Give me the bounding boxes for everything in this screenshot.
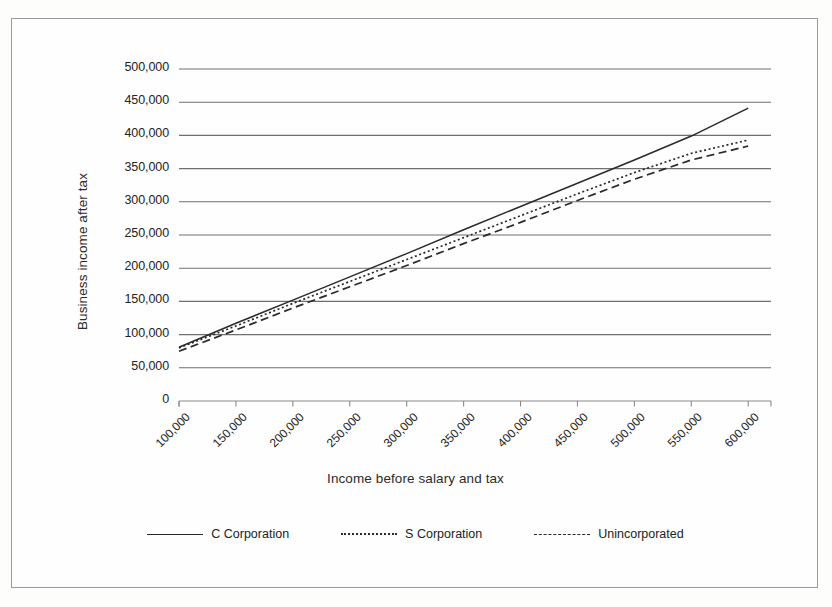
- legend-swatch-solid: [147, 534, 203, 535]
- y-tick-label: 300,000: [83, 193, 169, 207]
- figure-frame: 500,000450,000400,000350,000300,000250,0…: [11, 18, 818, 588]
- y-tick-label: 200,000: [83, 259, 169, 273]
- legend-item[interactable]: C Corporation: [147, 527, 289, 541]
- legend-item[interactable]: Unincorporated: [534, 527, 683, 541]
- y-tick-label: 450,000: [83, 93, 169, 107]
- series-line-c-corporation: [179, 108, 748, 347]
- legend-swatch-dashed: [534, 534, 590, 535]
- figure-page: 500,000450,000400,000350,000300,000250,0…: [0, 0, 832, 607]
- y-tick-label: 50,000: [83, 359, 169, 373]
- y-tick-label: 150,000: [83, 292, 169, 306]
- chart-legend: C CorporationS CorporationUnincorporated: [12, 527, 819, 541]
- y-tick-label: 350,000: [83, 160, 169, 174]
- x-axis-title: Income before salary and tax: [12, 471, 819, 486]
- y-tick-label: 0: [83, 392, 169, 406]
- legend-label: S Corporation: [405, 527, 482, 541]
- y-tick-label: 250,000: [83, 226, 169, 240]
- y-tick-label: 400,000: [83, 126, 169, 140]
- series-line-unincorporated: [179, 146, 748, 351]
- y-tick-label: 500,000: [83, 60, 169, 74]
- x-tick-marks-group: [179, 401, 771, 407]
- legend-label: C Corporation: [211, 527, 289, 541]
- y-tick-label: 100,000: [83, 326, 169, 340]
- legend-item[interactable]: S Corporation: [341, 527, 482, 541]
- gridlines-group: [179, 69, 771, 401]
- legend-label: Unincorporated: [598, 527, 683, 541]
- y-axis-title: Business income after tax: [75, 122, 90, 382]
- data-series-group: [179, 108, 748, 351]
- line-chart: 500,000450,000400,000350,000300,000250,0…: [12, 19, 819, 589]
- legend-swatch-dotted: [341, 533, 397, 535]
